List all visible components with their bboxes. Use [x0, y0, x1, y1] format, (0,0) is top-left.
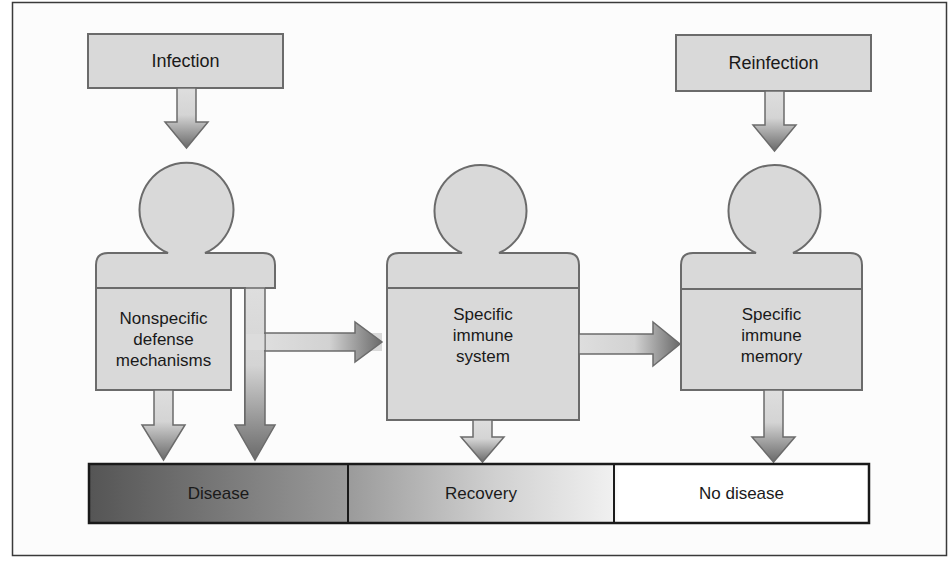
specific-system-line-3: system	[456, 346, 510, 367]
outcome-disease: Disease	[89, 464, 348, 523]
nonspecific-line-3: mechanisms	[116, 350, 211, 371]
specific-memory-line-2: immune	[741, 325, 801, 346]
nonspecific-defense-label: Nonspecific defense mechanisms	[96, 290, 231, 388]
diagram-canvas: Infection Reinfection Nonspecific defens…	[0, 0, 950, 564]
outcome-recovery: Recovery	[348, 464, 614, 523]
specific-immune-memory-label: Specific immune memory	[681, 300, 862, 370]
reinfection-label: Reinfection	[676, 35, 871, 91]
outcome-no-disease: No disease	[614, 464, 869, 523]
specific-memory-line-3: memory	[741, 346, 802, 367]
nonspecific-line-2: defense	[133, 329, 194, 350]
infection-label: Infection	[88, 34, 283, 88]
specific-system-line-2: immune	[453, 325, 513, 346]
specific-system-line-1: Specific	[453, 304, 513, 325]
specific-memory-line-1: Specific	[742, 304, 802, 325]
nonspecific-line-1: Nonspecific	[120, 308, 208, 329]
specific-immune-system-label: Specific immune system	[387, 300, 579, 370]
